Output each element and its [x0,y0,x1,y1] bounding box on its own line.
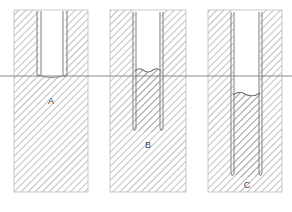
panel-label-b: B [145,140,151,150]
diagram-canvas: A B C [0,0,292,212]
panel-c: C [208,10,282,192]
tube-water-diagram: A B C [0,0,292,212]
tube-a [37,11,67,76]
panel-b: B [110,10,186,192]
panel-label-c: C [244,180,251,190]
panel-label-a: A [48,96,54,106]
panel-a: A [14,10,88,192]
